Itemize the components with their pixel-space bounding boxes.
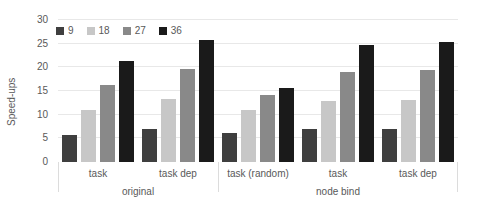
y-axis-title: Speed-ups xyxy=(6,78,17,126)
section-label-original: original xyxy=(58,186,218,197)
legend-item-36: 36 xyxy=(159,25,182,36)
bar-36 xyxy=(279,88,294,162)
section-node-bind xyxy=(218,15,458,162)
legend-swatch-icon xyxy=(123,27,131,35)
bar-27 xyxy=(180,69,195,162)
bar-36 xyxy=(199,40,214,162)
bar-sections xyxy=(58,15,458,162)
bar-9 xyxy=(142,129,157,162)
bar-group-task-dep xyxy=(138,40,218,162)
x-tick-label: task (random) xyxy=(218,168,298,179)
bar-9 xyxy=(302,129,317,162)
y-tick-label-10: 10 xyxy=(20,109,48,121)
section-separator xyxy=(457,162,458,192)
bar-group-task-random- xyxy=(218,88,298,162)
section-label-node-bind: node bind xyxy=(218,186,458,197)
legend-swatch-icon xyxy=(87,27,95,35)
y-tick-label-20: 20 xyxy=(20,61,48,73)
legend-item-27: 27 xyxy=(123,25,146,36)
bar-9 xyxy=(382,129,397,162)
legend-label: 27 xyxy=(135,25,146,36)
x-labels-original: tasktask dep xyxy=(58,168,218,179)
y-tick-label-30: 30 xyxy=(20,14,48,26)
x-tick-label: task xyxy=(58,168,138,179)
bar-36 xyxy=(119,61,134,162)
speedups-bar-chart: Speed-ups 051015202530 9182736 tasktask … xyxy=(0,0,487,208)
bar-18 xyxy=(241,110,256,162)
legend-item-18: 18 xyxy=(87,25,110,36)
x-tick-label: task xyxy=(298,168,378,179)
bar-27 xyxy=(100,85,115,162)
bar-36 xyxy=(359,45,374,162)
legend-swatch-icon xyxy=(56,27,64,35)
legend: 9182736 xyxy=(56,25,182,36)
legend-swatch-icon xyxy=(159,27,167,35)
x-labels-node-bind: task (random)tasktask dep xyxy=(218,168,458,179)
y-tick-label-5: 5 xyxy=(20,132,48,144)
legend-label: 18 xyxy=(99,25,110,36)
legend-label: 9 xyxy=(68,25,74,36)
bar-36 xyxy=(439,42,454,162)
bar-18 xyxy=(161,99,176,162)
y-tick-label-25: 25 xyxy=(20,38,48,50)
plot-area xyxy=(58,15,458,162)
bar-18 xyxy=(81,110,96,162)
bar-27 xyxy=(420,70,435,162)
x-tick-label: task dep xyxy=(378,168,458,179)
bar-9 xyxy=(62,135,77,162)
bar-18 xyxy=(321,101,336,162)
bar-18 xyxy=(401,100,416,162)
legend-item-9: 9 xyxy=(56,25,74,36)
bar-27 xyxy=(260,95,275,162)
x-axis-group-labels: tasktask deptask (random)tasktask dep xyxy=(58,168,458,179)
bar-27 xyxy=(340,72,355,162)
section-original xyxy=(58,15,218,162)
y-tick-label-15: 15 xyxy=(20,85,48,97)
bar-9 xyxy=(222,133,237,162)
y-axis: 051015202530 xyxy=(20,0,48,208)
bar-group-task-dep xyxy=(378,42,458,162)
x-tick-label: task dep xyxy=(138,168,218,179)
legend-label: 36 xyxy=(171,25,182,36)
y-tick-label-0: 0 xyxy=(20,156,48,168)
bar-group-task xyxy=(58,61,138,162)
bar-group-task xyxy=(298,45,378,162)
